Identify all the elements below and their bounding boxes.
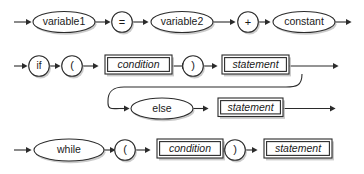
node-label: variable1 (43, 15, 86, 27)
node-box-statement-else[interactable]: statement (218, 98, 285, 119)
node-circle-open-paren-if[interactable]: ( (62, 56, 84, 79)
node-circle-equals[interactable]: = (112, 12, 134, 35)
row-if-statement: if ( condition ) (14, 55, 339, 121)
node-label: while (56, 143, 81, 155)
railroad-diagram-canvas: variable1 = variable2 + (0, 0, 364, 174)
node-label: statement (275, 142, 322, 154)
node-label: ) (191, 59, 195, 71)
node-box-condition-while[interactable]: condition (157, 139, 225, 160)
railroad-diagram-svg: variable1 = variable2 + (0, 0, 364, 174)
node-label: condition (117, 58, 159, 70)
node-label: else (152, 102, 171, 114)
node-label: ) (233, 143, 237, 155)
node-label: ( (70, 59, 74, 71)
node-label: variable2 (161, 15, 204, 27)
node-box-condition-if[interactable]: condition (105, 55, 174, 76)
node-box-statement-if[interactable]: statement (222, 55, 291, 76)
node-label: ( (123, 143, 127, 155)
node-label: + (245, 16, 251, 28)
node-label: if (37, 60, 42, 71)
node-oval-variable1[interactable]: variable1 (33, 12, 97, 35)
node-label: = (119, 16, 125, 28)
node-oval-variable2[interactable]: variable2 (151, 12, 215, 35)
node-oval-while[interactable]: while (34, 139, 106, 163)
node-label: statement (227, 101, 274, 113)
node-circle-close-paren-while[interactable]: ) (225, 140, 247, 163)
node-circle-plus[interactable]: + (238, 12, 260, 35)
node-label: constant (284, 15, 324, 27)
node-label: condition (169, 142, 211, 154)
node-label: statement (232, 58, 279, 70)
node-circle-open-paren-while[interactable]: ( (115, 140, 137, 163)
node-oval-else[interactable]: else (131, 98, 195, 121)
row-assignment-expression: variable1 = variable2 + (14, 12, 352, 35)
node-oval-constant[interactable]: constant (273, 12, 337, 35)
row-while-statement: while ( condition ) (14, 139, 334, 163)
node-circle-if[interactable]: if (29, 56, 51, 79)
node-box-statement-while[interactable]: statement (264, 139, 334, 160)
node-circle-close-paren-if[interactable]: ) (183, 56, 205, 79)
